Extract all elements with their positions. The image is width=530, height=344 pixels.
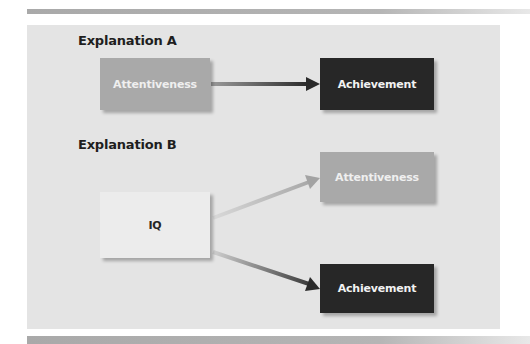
node-iq: IQ bbox=[100, 192, 210, 258]
arrow-iq-to-achievement-b bbox=[213, 252, 320, 291]
explanation-a-heading: Explanation A bbox=[78, 33, 177, 48]
node-achievement-b: Achievement bbox=[320, 264, 434, 313]
arrow-iq-to-attentiveness-b bbox=[213, 175, 320, 218]
arrow-attentiveness-to-achievement-a bbox=[211, 77, 320, 91]
explanation-b-heading: Explanation B bbox=[78, 137, 177, 152]
node-attentiveness-a: Attentiveness bbox=[100, 58, 210, 110]
bottom-rule bbox=[27, 336, 530, 344]
arrows-layer bbox=[0, 0, 530, 344]
node-achievement-a: Achievement bbox=[320, 58, 434, 110]
node-attentiveness-b: Attentiveness bbox=[320, 152, 434, 202]
